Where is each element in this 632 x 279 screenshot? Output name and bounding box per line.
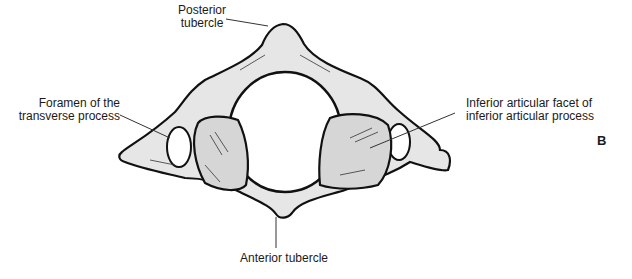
right-articular-facet — [319, 114, 391, 189]
label-line: Anterior tubercle — [240, 252, 328, 265]
label-posterior-tubercle: Posterior tubercle — [178, 4, 226, 30]
left-transverse-foramen — [167, 127, 191, 167]
vertebra-illustration — [0, 0, 632, 279]
panel-letter: B — [597, 133, 606, 148]
label-inferior-articular-facet: Inferior articular facet of inferior art… — [466, 97, 594, 123]
label-foramen-transverse-process: Foramen of the transverse process — [10, 97, 120, 123]
label-line: inferior articular process — [466, 110, 594, 123]
label-line: tubercle — [178, 17, 226, 30]
label-line: transverse process — [10, 110, 120, 123]
label-anterior-tubercle: Anterior tubercle — [240, 252, 328, 265]
